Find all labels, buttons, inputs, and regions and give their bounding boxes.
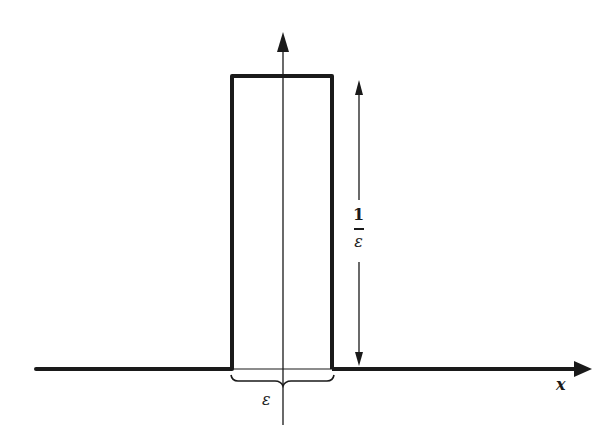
y-axis-arrowhead-icon [277,32,289,52]
height-label-numerator: 1 [353,207,364,223]
down-arrowhead-icon [355,352,363,366]
rectangular-pulse [232,76,332,369]
x-axis-arrowhead-icon [574,361,592,377]
width-label: ε [262,392,271,408]
pulse-diagram-svg [0,0,611,442]
x-axis-label: x [556,377,566,393]
y-axis [277,32,289,425]
fraction-bar [354,228,364,230]
x-axis [36,361,592,377]
up-arrowhead-icon [355,80,363,95]
height-label-denominator: ε [354,234,363,250]
height-label: 1 ε [353,207,364,250]
diagram-canvas: 1 ε ε x [0,0,611,442]
